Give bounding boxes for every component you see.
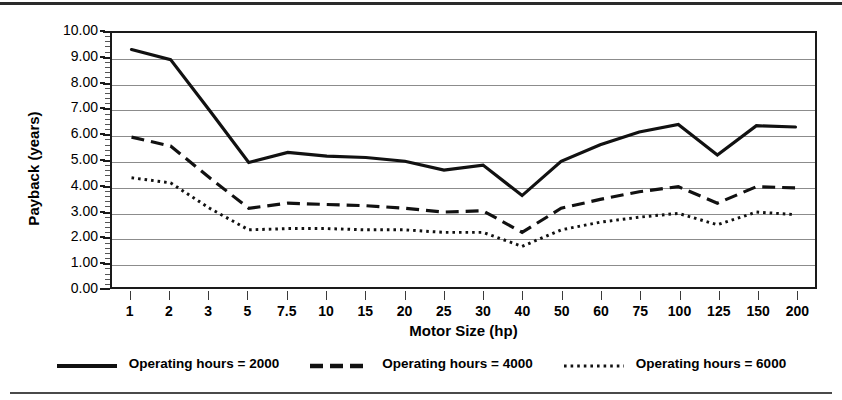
- y-axis-major-tick: [103, 237, 110, 239]
- x-axis-tick: [680, 291, 681, 300]
- y-axis-major-tick: [103, 288, 110, 290]
- plot-area: [110, 31, 817, 289]
- legend-label: Operating hours = 2000: [129, 356, 279, 371]
- x-axis-tick: [169, 291, 170, 300]
- x-axis-tick: [522, 291, 523, 300]
- legend-swatch-dashed: [309, 358, 371, 370]
- x-axis-tick: [444, 291, 445, 300]
- legend-swatch-dotted: [563, 358, 625, 370]
- bottom-divider-rule: [10, 392, 832, 394]
- series-line-1: [132, 50, 796, 196]
- y-axis-major-tick: [103, 31, 110, 33]
- legend-label: Operating hours = 6000: [636, 356, 786, 371]
- x-axis-tick: [797, 291, 798, 300]
- y-axis-tick-label: 4.00: [38, 177, 98, 193]
- x-axis-tick-label: 200: [774, 303, 820, 319]
- x-axis-tick: [130, 291, 131, 300]
- y-axis-tick-label: 0.00: [38, 280, 98, 296]
- x-axis-title-label: Motor Size (hp): [110, 322, 817, 339]
- x-axis-tick: [640, 291, 641, 300]
- top-divider-rule: [0, 2, 842, 5]
- x-axis-tick: [483, 291, 484, 300]
- y-axis-major-tick: [103, 83, 110, 85]
- x-axis-tick: [562, 291, 563, 300]
- legend-item-3: Operating hours = 6000: [563, 356, 786, 371]
- y-axis-major-tick: [103, 160, 110, 162]
- y-axis-major-tick: [103, 263, 110, 265]
- y-axis-title-label: Payback (years): [25, 54, 42, 284]
- x-axis-tick: [719, 291, 720, 300]
- y-axis-major-tick: [103, 108, 110, 110]
- y-axis-tick-label: 6.00: [38, 125, 98, 141]
- x-axis-tick: [601, 291, 602, 300]
- legend-item-2: Operating hours = 4000: [309, 356, 532, 371]
- y-axis-major-tick: [103, 134, 110, 136]
- y-axis-major-tick: [103, 212, 110, 214]
- y-axis-tick-label: 3.00: [38, 203, 98, 219]
- x-axis-tick: [405, 291, 406, 300]
- legend-item-1: Operating hours = 2000: [56, 356, 279, 371]
- y-axis-tick-label: 2.00: [38, 228, 98, 244]
- y-axis-tick-label: 5.00: [38, 151, 98, 167]
- x-axis-tick: [287, 291, 288, 300]
- y-axis-tick-label: 1.00: [38, 254, 98, 270]
- legend-label: Operating hours = 4000: [382, 356, 532, 371]
- legend-swatch-solid: [56, 358, 118, 370]
- x-axis-tick: [208, 291, 209, 300]
- y-axis-tick-label: 8.00: [38, 74, 98, 90]
- y-axis-tick-label: 10.00: [38, 22, 98, 38]
- x-axis-tick: [326, 291, 327, 300]
- series-lines: [112, 33, 815, 287]
- x-axis-tick: [365, 291, 366, 300]
- y-axis-tick-label: 7.00: [38, 99, 98, 115]
- y-axis-major-tick: [103, 186, 110, 188]
- series-line-3: [132, 178, 796, 247]
- chart-legend: Operating hours = 2000Operating hours = …: [0, 356, 842, 371]
- x-axis-tick: [247, 291, 248, 300]
- y-axis-major-tick: [103, 57, 110, 59]
- x-axis-tick: [758, 291, 759, 300]
- y-axis-tick-label: 9.00: [38, 48, 98, 64]
- chart-figure: Payback (years) 10.009.008.007.006.005.0…: [0, 0, 842, 400]
